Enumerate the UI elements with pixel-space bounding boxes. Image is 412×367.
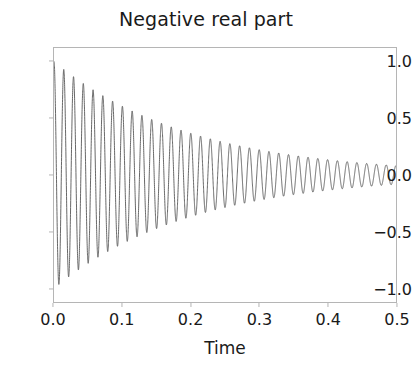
x-tick-mark — [190, 303, 191, 307]
x-tick-label: 0.1 — [92, 310, 152, 329]
x-tick-mark — [396, 303, 397, 307]
x-tick-mark — [121, 303, 122, 307]
y-tick-label: 1.0 — [366, 51, 412, 70]
figure-canvas: Negative real part 1.00.50.0−0.5−1.0 0.0… — [0, 0, 412, 367]
x-tick-label: 0.5 — [367, 310, 412, 329]
y-tick-mark — [49, 232, 53, 233]
x-tick-mark — [259, 303, 260, 307]
x-axis-label: Time — [53, 338, 397, 358]
y-tick-label: −0.5 — [366, 223, 412, 242]
y-tick-mark — [49, 117, 53, 118]
y-tick-label: 0.5 — [366, 108, 412, 127]
y-tick-mark — [49, 60, 53, 61]
x-tick-mark — [52, 303, 53, 307]
x-tick-label: 0.0 — [23, 310, 83, 329]
x-tick-label: 0.3 — [229, 310, 289, 329]
x-tick-label: 0.4 — [298, 310, 358, 329]
y-tick-mark — [49, 174, 53, 175]
y-tick-mark — [49, 289, 53, 290]
plot-area — [53, 47, 397, 303]
damped-cosine-curve — [54, 48, 396, 302]
x-tick-label: 0.2 — [161, 310, 221, 329]
x-tick-mark — [328, 303, 329, 307]
y-tick-label: −1.0 — [366, 280, 412, 299]
y-tick-label: 0.0 — [366, 166, 412, 185]
chart-title: Negative real part — [0, 8, 412, 30]
